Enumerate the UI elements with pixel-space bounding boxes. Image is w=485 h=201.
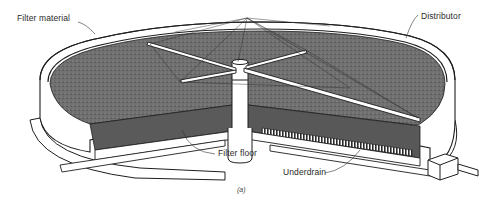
label-filter-material: Filter material	[17, 13, 70, 23]
effluent-outlet	[428, 154, 478, 180]
label-filter-floor: Filter floor	[218, 148, 257, 158]
figure-caption: (a)	[237, 186, 246, 193]
trickling-filter-diagram	[0, 0, 485, 201]
label-distributor: Distributor	[421, 11, 461, 21]
label-underdrain: Underdrain	[283, 167, 326, 177]
